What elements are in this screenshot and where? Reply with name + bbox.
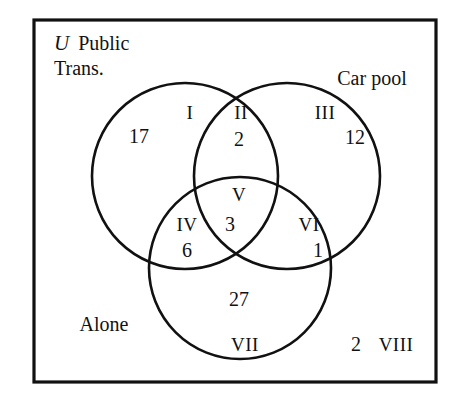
region-count-II: 2 bbox=[234, 129, 244, 149]
region-numeral-V: V bbox=[232, 185, 246, 204]
region-count-IV: 6 bbox=[182, 240, 192, 260]
universe-symbol: U bbox=[54, 31, 69, 55]
car-pool-label: Car pool bbox=[337, 68, 406, 88]
region-numeral-VI: VI bbox=[298, 215, 319, 234]
region-count-VI: 1 bbox=[313, 240, 323, 260]
alone-label: Alone bbox=[80, 314, 129, 334]
region-numeral-III: III bbox=[315, 103, 335, 122]
region-numeral-IV: IV bbox=[176, 215, 197, 234]
public-transport-label-line1: Public bbox=[69, 32, 129, 54]
region-numeral-I: I bbox=[187, 103, 194, 122]
public-transport-label-line2: Trans. bbox=[54, 56, 129, 81]
region-numeral-II: II bbox=[234, 103, 248, 122]
region-count-I: 17 bbox=[129, 126, 149, 146]
region-count-VIII: 2 bbox=[351, 334, 361, 354]
region-count-III: 12 bbox=[345, 127, 365, 147]
region-count-V: 3 bbox=[225, 214, 235, 234]
region-count-VII: 27 bbox=[229, 289, 249, 309]
region-numeral-VII: VII bbox=[231, 335, 259, 354]
region-numeral-VIII: VIII bbox=[379, 335, 414, 354]
universal-set-label: UPublic Trans. bbox=[54, 30, 129, 81]
venn-diagram-figure: UPublic Trans. Car pool Alone I 17 II 2 … bbox=[0, 0, 460, 408]
